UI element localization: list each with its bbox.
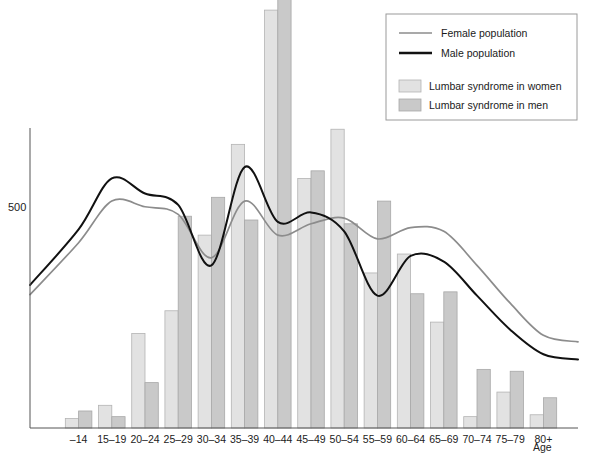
x-tick-label: 45–49	[296, 433, 325, 445]
x-tick-label: 75–79	[496, 433, 525, 445]
x-tick-label: 20–24	[130, 433, 159, 445]
bar-women	[464, 417, 477, 428]
bar-women	[397, 254, 410, 428]
x-axis-title: Age	[533, 441, 552, 453]
bar-women	[530, 415, 543, 428]
legend-label-lumbar-men: Lumbar syndrome in men	[429, 99, 548, 111]
bar-women	[231, 144, 244, 428]
bar-men	[278, 0, 291, 428]
bar-women	[431, 322, 444, 428]
bar-women	[165, 311, 178, 428]
bar-men	[411, 294, 424, 428]
lumbar-syndrome-chart: 500 –1415–1920–2425–2930–3435–3940–4445–…	[0, 0, 591, 458]
chart-canvas: 500 –1415–1920–2425–2930–3435–3940–4445–…	[0, 0, 591, 458]
bar-women	[99, 405, 112, 428]
x-tick-label: 30–34	[197, 433, 226, 445]
y-tick-label-500: 500	[8, 201, 26, 213]
bar-men	[245, 220, 258, 428]
x-tick-label: 35–39	[230, 433, 259, 445]
x-tick-label: 70–74	[462, 433, 491, 445]
bar-men	[543, 398, 556, 428]
legend-label-female-population: Female population	[441, 27, 528, 39]
bar-men	[112, 417, 125, 428]
bar-women	[331, 129, 344, 428]
bar-men	[79, 411, 92, 428]
bar-men	[145, 383, 158, 428]
bar-men	[377, 201, 390, 428]
legend-label-lumbar-women: Lumbar syndrome in women	[429, 80, 562, 92]
bar-men	[211, 197, 224, 428]
legend-men-box-swatch	[399, 99, 421, 111]
x-tick-label: 65–69	[429, 433, 458, 445]
bar-women	[65, 419, 78, 428]
x-tick-label: –14	[70, 433, 88, 445]
legend-women-box-swatch	[399, 80, 421, 92]
bar-men	[178, 216, 191, 428]
bar-men	[311, 171, 324, 428]
x-tick-label: 55–59	[363, 433, 392, 445]
x-tick-label: 60–64	[396, 433, 425, 445]
x-tick-label: 40–44	[263, 433, 292, 445]
bar-women	[497, 392, 510, 428]
bar-men	[477, 369, 490, 428]
bar-women	[132, 333, 145, 428]
legend: Female population Male population Lumbar…	[386, 14, 577, 120]
x-tick-labels: –1415–1920–2425–2930–3435–3940–4445–4950…	[70, 433, 552, 445]
bar-men	[510, 371, 523, 428]
legend-label-male-population: Male population	[441, 47, 515, 59]
x-tick-label: 50–54	[330, 433, 359, 445]
x-tick-label: 25–29	[164, 433, 193, 445]
bar-women	[364, 273, 377, 428]
x-tick-label: 15–19	[97, 433, 126, 445]
bar-men	[444, 292, 457, 428]
